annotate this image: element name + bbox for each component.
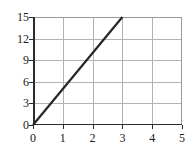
- plot-area: [33, 17, 182, 125]
- data-series-line: [33, 17, 182, 125]
- x-tick-label: 0: [23, 131, 43, 145]
- x-tick-label: 4: [142, 131, 162, 145]
- y-tick-label: 0: [5, 119, 29, 131]
- x-axis-tick: [122, 125, 123, 129]
- x-tick-label: 5: [172, 131, 192, 145]
- y-tick-label: 15: [5, 11, 29, 23]
- y-tick-label: 9: [5, 54, 29, 66]
- x-axis-tick: [93, 125, 94, 129]
- line-chart-figure: 15 12 9 6 3 0 0 1 2 3 4 5: [0, 0, 195, 153]
- x-tick-label: 3: [112, 131, 132, 145]
- x-tick-label: 1: [53, 131, 73, 145]
- series-line-segment: [33, 17, 122, 125]
- x-tick-label: 2: [83, 131, 103, 145]
- y-tick-label: 3: [5, 97, 29, 109]
- y-tick-label: 12: [5, 33, 29, 45]
- x-axis-tick: [152, 125, 153, 129]
- x-axis-tick: [182, 125, 183, 129]
- y-tick-label: 6: [5, 76, 29, 88]
- x-axis-tick: [63, 125, 64, 129]
